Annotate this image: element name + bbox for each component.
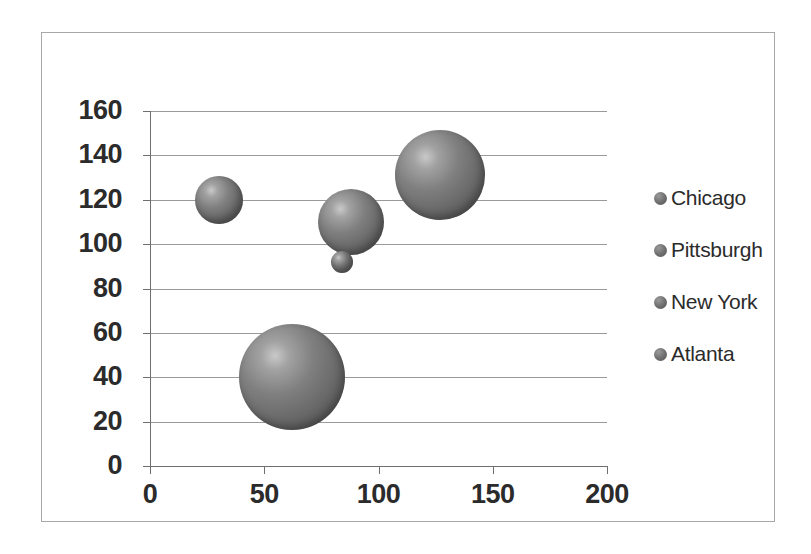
x-axis-label-200: 200 (567, 481, 647, 508)
y-tick-80 (143, 289, 151, 290)
y-axis-label-40: 40 (60, 363, 122, 390)
gridline-y-20 (150, 422, 607, 423)
gridline-y-80 (150, 289, 607, 290)
legend-item-atlanta[interactable]: Atlanta (654, 341, 734, 367)
y-tick-160 (143, 111, 151, 112)
legend-item-label: Atlanta (671, 342, 734, 366)
gridline-y-100 (150, 244, 607, 245)
legend-marker-icon (654, 244, 667, 257)
y-axis-label-0: 0 (60, 452, 122, 479)
plot-area (150, 111, 607, 466)
y-axis-label-120: 120 (60, 186, 122, 213)
x-tick-50 (264, 466, 265, 474)
x-axis-label-0: 0 (110, 481, 190, 508)
bubble-pittsburgh-1[interactable] (318, 189, 384, 255)
bubble-chicago-0[interactable] (195, 176, 243, 224)
y-axis-label-20: 20 (60, 408, 122, 435)
y-axis-label-100: 100 (60, 230, 122, 257)
legend-marker-icon (654, 192, 667, 205)
legend-marker-icon (654, 348, 667, 361)
legend-item-pittsburgh[interactable]: Pittsburgh (654, 237, 763, 263)
gridline-y-140 (150, 155, 607, 156)
y-axis-label-160: 160 (60, 97, 122, 124)
x-axis-label-100: 100 (339, 481, 419, 508)
y-axis-label-80: 80 (60, 275, 122, 302)
y-tick-20 (143, 422, 151, 423)
x-tick-200 (607, 466, 608, 474)
gridline-y-40 (150, 377, 607, 378)
x-axis-label-50: 50 (224, 481, 304, 508)
bubble-atlanta-4[interactable] (239, 324, 345, 430)
y-tick-40 (143, 377, 151, 378)
y-tick-100 (143, 244, 151, 245)
y-tick-120 (143, 200, 151, 201)
y-tick-60 (143, 333, 151, 334)
y-axis-label-140: 140 (60, 141, 122, 168)
y-axis-label-60: 60 (60, 319, 122, 346)
x-axis-label-150: 150 (453, 481, 533, 508)
legend-item-label: Chicago (671, 186, 746, 210)
legend-item-new-york[interactable]: New York (654, 289, 757, 315)
legend-item-label: New York (671, 290, 757, 314)
x-tick-150 (493, 466, 494, 474)
x-tick-100 (379, 466, 380, 474)
chart-frame: 020406080100120140160 050100150200 Chica… (41, 32, 775, 522)
legend-item-chicago[interactable]: Chicago (654, 185, 746, 211)
x-tick-0 (150, 466, 151, 474)
gridline-y-160 (150, 111, 607, 112)
y-tick-140 (143, 155, 151, 156)
bubble-new-york-2[interactable] (331, 251, 353, 273)
legend-item-label: Pittsburgh (671, 238, 763, 262)
legend-marker-icon (654, 296, 667, 309)
bubble-atlanta-3[interactable] (395, 130, 485, 220)
gridline-y-60 (150, 333, 607, 334)
